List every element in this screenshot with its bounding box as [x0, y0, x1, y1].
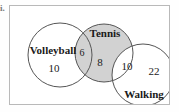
region-count-walking-only: 22 — [149, 65, 160, 77]
figure-frame: Volleyball Tennis Walking 10 6 8 10 22 — [9, 5, 170, 105]
region-count-tennis-only: 8 — [97, 56, 103, 68]
set-label-walking: Walking — [124, 88, 164, 100]
list-item-marker: i. — [0, 2, 8, 15]
set-label-tennis: Tennis — [90, 27, 122, 39]
region-count-volleyball-tennis: 6 — [80, 47, 85, 58]
region-count-volleyball-only: 10 — [49, 62, 61, 74]
set-label-volleyball: Volleyball — [30, 44, 77, 56]
region-count-tennis-walking: 10 — [122, 60, 134, 72]
venn-diagram: Volleyball Tennis Walking 10 6 8 10 22 — [10, 6, 169, 104]
page-root: i. Volleyball Tennis Walking — [0, 0, 179, 112]
